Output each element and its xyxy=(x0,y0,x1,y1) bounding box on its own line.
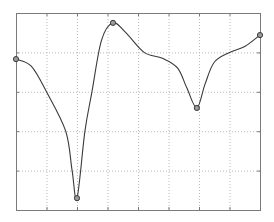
data-point-marker xyxy=(13,56,18,61)
data-point-marker xyxy=(257,32,262,37)
data-point-marker xyxy=(74,196,79,201)
data-point-marker xyxy=(194,105,199,110)
data-point-marker xyxy=(110,20,115,25)
line-chart xyxy=(0,0,274,222)
axis-ticks xyxy=(16,13,261,211)
chart-grid xyxy=(16,13,260,210)
